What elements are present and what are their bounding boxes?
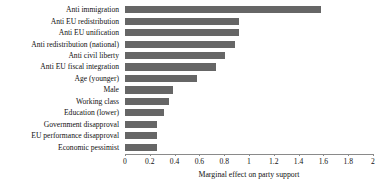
category-label: Anti EU redistribution (0, 17, 119, 26)
category-label: Education (lower) (0, 108, 119, 117)
bar-row (125, 52, 373, 59)
bar-chart-figure: Anti immigrationAnti EU redistributionAn… (0, 0, 381, 189)
category-label: Male (0, 85, 119, 94)
x-axis-title: Marginal effect on party support (125, 170, 373, 180)
x-tick-mark (299, 154, 300, 156)
bar-row (125, 98, 373, 105)
x-tick-mark (249, 154, 250, 156)
bar (125, 109, 164, 116)
x-tick-label: 2 (353, 157, 381, 167)
bar (125, 52, 225, 59)
bar-row (125, 63, 373, 70)
category-label: Anti redistribution (national) (0, 40, 119, 49)
x-tick-mark (348, 154, 349, 156)
bar-row (125, 18, 373, 25)
category-axis-labels: Anti immigrationAnti EU redistributionAn… (0, 4, 122, 153)
bar (125, 121, 157, 128)
bar (125, 86, 173, 93)
bar-row (125, 41, 373, 48)
bar-row (125, 29, 373, 36)
x-tick-mark (224, 154, 225, 156)
bar (125, 29, 239, 36)
category-label: Working class (0, 97, 119, 106)
category-label: Anti EU unification (0, 28, 119, 37)
category-label: Age (younger) (0, 74, 119, 83)
bar (125, 6, 321, 13)
bar-row (125, 6, 373, 13)
bar (125, 144, 157, 151)
bar-row (125, 132, 373, 139)
bar-row (125, 109, 373, 116)
category-label: Government disapproval (0, 120, 119, 129)
bar-row (125, 121, 373, 128)
category-label: Anti immigration (0, 5, 119, 14)
x-tick-mark (323, 154, 324, 156)
bar-row (125, 75, 373, 82)
bar-row (125, 86, 373, 93)
bar (125, 63, 216, 70)
x-tick-mark (125, 154, 126, 156)
x-tick-mark (274, 154, 275, 156)
bar-row (125, 144, 373, 151)
x-tick-mark (150, 154, 151, 156)
bar (125, 75, 197, 82)
x-tick-mark (199, 154, 200, 156)
bar (125, 18, 239, 25)
bar (125, 132, 157, 139)
x-tick-mark (175, 154, 176, 156)
bar (125, 41, 235, 48)
category-label: EU performance disapproval (0, 131, 119, 140)
category-label: Anti EU fiscal integration (0, 62, 119, 71)
bar (125, 98, 169, 105)
category-label: Anti civil liberty (0, 51, 119, 60)
plot-area (125, 4, 373, 153)
category-label: Economic pessimist (0, 143, 119, 152)
x-tick-mark (373, 154, 374, 156)
